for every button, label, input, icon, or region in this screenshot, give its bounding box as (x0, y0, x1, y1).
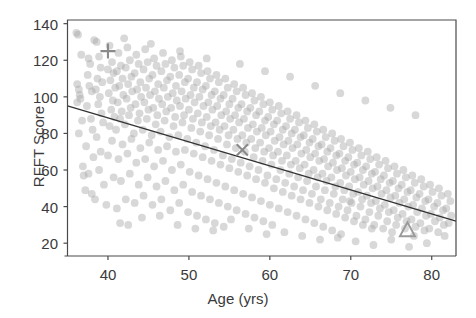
data-point (408, 216, 416, 224)
data-point (130, 130, 138, 138)
data-point (240, 115, 248, 123)
data-point (157, 195, 165, 203)
data-point (272, 175, 280, 183)
data-point (79, 162, 87, 170)
data-point (323, 206, 331, 214)
data-point (263, 230, 271, 238)
data-point (319, 170, 327, 178)
data-point (347, 168, 355, 176)
data-point (284, 108, 292, 116)
data-point (149, 71, 157, 79)
data-point (95, 53, 103, 61)
data-point (134, 117, 142, 125)
data-point (321, 186, 329, 194)
plot-canvas (0, 0, 476, 318)
data-point (268, 221, 276, 229)
data-point (380, 172, 388, 180)
data-point (150, 55, 158, 63)
data-point (140, 192, 148, 200)
x-tick-label: 60 (261, 266, 278, 283)
data-point (344, 153, 352, 161)
data-point (211, 219, 219, 227)
data-point (91, 195, 99, 203)
data-point (191, 225, 199, 233)
y-axis-title: RFFT Score (30, 87, 47, 207)
data-point (195, 172, 203, 180)
data-point (141, 155, 149, 163)
data-point (174, 221, 182, 229)
data-point (223, 141, 231, 149)
data-point (391, 162, 399, 170)
data-point (166, 73, 174, 81)
data-point (408, 172, 416, 180)
data-point (136, 144, 144, 152)
data-point (190, 150, 198, 158)
data-point (202, 82, 210, 90)
scatter-points-group (73, 29, 456, 251)
data-point (344, 206, 352, 214)
data-point (187, 124, 195, 132)
data-point (288, 192, 296, 200)
data-point (399, 210, 407, 218)
data-point (284, 208, 292, 216)
data-point (188, 188, 196, 196)
data-point (279, 188, 287, 196)
data-point (400, 195, 408, 203)
data-point (336, 150, 344, 158)
data-point (147, 40, 155, 48)
data-point (435, 184, 443, 192)
data-point (149, 104, 157, 112)
data-point (213, 71, 221, 79)
data-point (326, 199, 334, 207)
data-point (255, 108, 263, 116)
data-point (156, 212, 164, 220)
data-point (83, 102, 91, 110)
data-point (124, 80, 132, 88)
data-point (204, 175, 212, 183)
data-point (281, 228, 289, 236)
data-point (158, 100, 166, 108)
data-point (266, 201, 274, 209)
data-point (153, 111, 161, 119)
data-point (320, 155, 328, 163)
data-point (204, 98, 212, 106)
data-point (213, 179, 221, 187)
data-point (90, 153, 98, 161)
data-point (170, 122, 178, 130)
data-point (265, 144, 273, 152)
data-point (84, 71, 92, 79)
data-point (273, 117, 281, 125)
data-point (213, 102, 221, 110)
data-point (230, 80, 238, 88)
data-point (135, 181, 143, 189)
data-point (364, 148, 372, 156)
data-point (357, 203, 365, 211)
rfft-age-scatter-figure: 20406080100120140 4050607080 RFFT Score … (0, 0, 476, 318)
data-point (123, 150, 131, 158)
data-point (423, 239, 431, 247)
data-point (259, 217, 267, 225)
data-point (152, 120, 160, 128)
data-point (373, 153, 381, 161)
data-point (118, 108, 126, 116)
data-point (136, 109, 144, 117)
data-point (90, 36, 98, 44)
data-point (159, 157, 167, 165)
data-point (319, 223, 327, 231)
data-point (389, 177, 397, 185)
data-point (274, 148, 282, 156)
data-point (123, 44, 131, 52)
data-point (181, 146, 189, 154)
data-point (205, 131, 213, 139)
data-point (89, 126, 97, 134)
data-point (115, 155, 123, 163)
data-point (293, 111, 301, 119)
data-point (257, 93, 265, 101)
data-point (178, 87, 186, 95)
data-point (105, 89, 113, 97)
data-point (172, 148, 180, 156)
data-point (297, 195, 305, 203)
data-point (417, 175, 425, 183)
data-point (209, 226, 217, 234)
data-point (94, 100, 102, 108)
